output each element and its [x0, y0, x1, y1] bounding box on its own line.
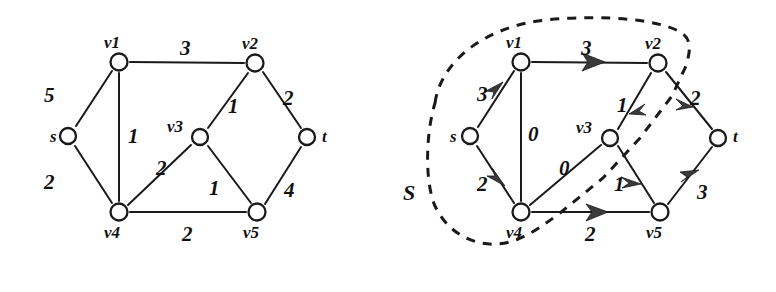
edge-weight-v4-v5: 2: [182, 224, 193, 245]
node-v5[interactable]: [652, 204, 669, 221]
cut-set-label: S: [403, 182, 415, 204]
edge-weight-v1-v4: 1: [128, 126, 139, 147]
edge-flow-v2-v3: 1: [617, 95, 628, 116]
edge-flow-v4-v3: 0: [559, 158, 570, 179]
right-graph-arrowheads: [486, 53, 699, 221]
node-t[interactable]: [710, 130, 726, 146]
node-label-v2: v2: [645, 35, 661, 52]
edge-flow-s-v4: 2: [477, 174, 488, 195]
node-label-v2: v2: [242, 35, 258, 52]
node-label-v5: v5: [243, 224, 259, 241]
node-v1[interactable]: [513, 54, 530, 71]
node-label-v4: v4: [506, 224, 522, 241]
edge-s-v4: [75, 146, 112, 203]
node-t[interactable]: [299, 129, 315, 145]
node-v2[interactable]: [650, 55, 667, 72]
left-graph-edges: [75, 62, 301, 212]
node-v3[interactable]: [602, 130, 618, 146]
node-v2[interactable]: [247, 55, 264, 72]
node-v5[interactable]: [249, 204, 266, 221]
arrow-s-v4-icon: [487, 168, 505, 186]
edge-s-v1: [76, 71, 112, 126]
node-s[interactable]: [60, 128, 76, 144]
edge-v5-t: [265, 147, 301, 204]
node-label-v3: v3: [576, 119, 592, 136]
edge-v2-t: [263, 72, 301, 128]
left-graph-nodes: [60, 54, 315, 221]
edge-weight-v2-t: 2: [283, 88, 294, 109]
node-v3[interactable]: [192, 129, 208, 145]
node-v4[interactable]: [513, 204, 530, 221]
edge-flow-v4-v5: 2: [585, 224, 596, 245]
node-label-v1: v1: [104, 34, 120, 51]
edge-flow-v1-v4: 0: [528, 124, 539, 145]
node-label-s: s: [50, 128, 57, 145]
right-graph-nodes: [462, 54, 726, 221]
node-label-v5: v5: [646, 224, 662, 241]
edge-v2-t: [666, 72, 712, 129]
node-label-v1: v1: [506, 34, 522, 51]
edge-flow-v5-t: 3: [697, 182, 708, 203]
edge-weight-v5-t: 4: [284, 180, 295, 201]
node-s[interactable]: [462, 128, 478, 144]
node-v1[interactable]: [111, 54, 128, 71]
edge-weight-v4-v3: 2: [156, 158, 167, 179]
edge-v1-v2: [130, 62, 244, 63]
node-label-v3: v3: [167, 118, 183, 135]
node-label-v4: v4: [104, 224, 120, 241]
edge-weight-s-v1: 5: [44, 85, 55, 106]
edge-weight-v3-v2: 1: [228, 96, 239, 117]
edge-weight-v3-v5: 1: [209, 178, 220, 199]
edge-weight-v1-v2: 3: [180, 38, 191, 59]
edge-flow-v1-v2: 3: [581, 38, 592, 59]
node-label-t: t: [733, 128, 738, 145]
node-label-s: s: [450, 128, 457, 145]
node-label-t: t: [322, 128, 327, 145]
edge-flow-v2-t: 2: [690, 88, 701, 109]
edge-flow-v3-v5: 1: [614, 174, 625, 195]
edge-flow-s-v1: 3: [477, 84, 488, 105]
figure-root: s v1 v2 v3 v4 v5 t 5 2 3 1 1 2 2 1 2 4 S…: [0, 0, 776, 292]
edge-weight-s-v4: 2: [44, 172, 55, 193]
node-v4[interactable]: [111, 204, 128, 221]
